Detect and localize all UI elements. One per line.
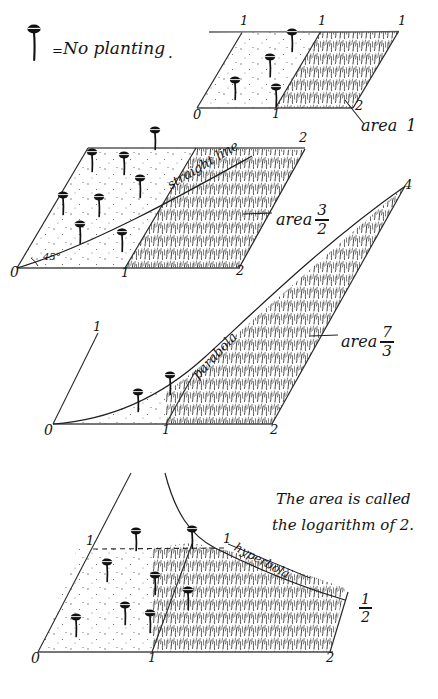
- panel-1-topline: [209, 32, 399, 33]
- panel-2-area-fraction: 3 2: [315, 203, 329, 237]
- panel-2-label-1-bottom: 1: [121, 266, 129, 280]
- nail-icon: [131, 528, 141, 551]
- panel-4-label-1-bottom: 1: [148, 651, 156, 665]
- panel-3-label-4-top: 4: [404, 178, 412, 192]
- panel-4-half-fraction: 1 2: [359, 592, 372, 624]
- nail-icon: [150, 127, 160, 150]
- panel-1-label-2-bottom: 2: [355, 99, 363, 113]
- panel-1-label-0: 0: [193, 108, 201, 122]
- panel-4-half-denominator: 2: [359, 610, 372, 624]
- panel-4-caption-line1: The area is called: [276, 492, 411, 508]
- panel-1-label-1-topmid: 1: [318, 14, 326, 28]
- drawing-canvas: = No planting . 0 1 2 1 1 1 area 1 0 1 2…: [0, 0, 438, 699]
- panel-2-area-denominator: 2: [315, 222, 329, 237]
- panel-3-area-numerator: 7: [380, 325, 394, 340]
- panel-3-area-word: area: [341, 334, 377, 351]
- panel-4-half-numerator: 1: [359, 592, 372, 606]
- panel-2-area-numerator: 3: [315, 203, 329, 218]
- panel-1-label-1-bottom: 1: [272, 107, 280, 121]
- panel-3-area-denominator: 3: [380, 344, 394, 359]
- panel-3-label-1-bottom: 1: [162, 423, 170, 437]
- panel-3-label-2-bottom: 2: [270, 423, 278, 437]
- legend-text: No planting: [63, 40, 165, 58]
- panel-2-figure: [17, 127, 305, 269]
- legend-equals: =: [52, 44, 63, 58]
- legend-nail-icon: [24, 22, 50, 64]
- panel-1-area-value: 1: [406, 116, 416, 135]
- panel-1-figure: [197, 29, 399, 124]
- panel-4-label-1-right: 1: [223, 532, 231, 546]
- panel-2-area-word: area: [276, 212, 312, 229]
- panel-4-label-0: 0: [31, 651, 40, 666]
- panel-4-label-1-left: 1: [86, 534, 94, 548]
- panel-2-label-2-bottom: 2: [236, 264, 244, 278]
- panel-4-half-label: 1 2: [356, 592, 372, 624]
- panel-1-label-1-topright: 1: [398, 14, 406, 28]
- panel-4-label-2-bottom: 2: [326, 651, 334, 665]
- panel-2-label-2-top: 2: [299, 131, 307, 145]
- panel-3-label-0: 0: [44, 423, 53, 438]
- panel-3-area-label: area 7 3: [341, 325, 394, 359]
- panel-4-left-region: [38, 548, 152, 652]
- legend-period: .: [168, 46, 173, 62]
- panel-2-angle-label: 45°: [43, 252, 61, 263]
- panel-1-area-label: area 1: [361, 118, 416, 135]
- panel-2-area-label: area 3 2: [276, 203, 329, 237]
- panel-3-label-1-top: 1: [93, 320, 101, 334]
- panel-3-left-edge: [53, 333, 98, 424]
- panel-3-area-fraction: 7 3: [380, 325, 394, 359]
- panel-2-label-0: 0: [10, 265, 19, 280]
- panel-4-caption-line2: the logarithm of 2.: [272, 518, 414, 534]
- panel-1-area-word: area: [361, 116, 397, 135]
- panel-1-label-1-topleft: 1: [240, 14, 248, 28]
